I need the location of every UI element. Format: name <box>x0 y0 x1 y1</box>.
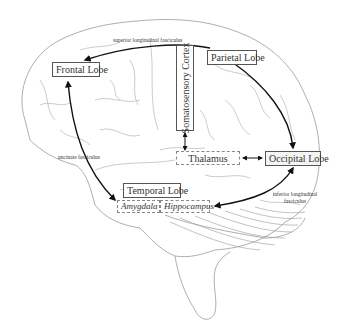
cerebellum-folia <box>170 207 305 250</box>
somatosensory-cortex-label: Somatosensory Cortex <box>180 43 191 134</box>
box-thalamus: Thalamus <box>176 151 240 165</box>
box-occipital-lobe: Occipital Lobe <box>265 151 321 166</box>
arrow-parietal-occipital <box>232 62 293 148</box>
arrow-uncinate <box>68 82 115 200</box>
box-temporal-lobe: Temporal Lobe <box>123 183 181 198</box>
label-uncinate-fasciculus: uncinate fasciculus <box>58 154 100 161</box>
brain-outline-diagram <box>0 0 337 333</box>
box-somatosensory-cortex: Somatosensory Cortex <box>176 45 194 131</box>
box-frontal-lobe: Frontal Lobe <box>52 62 100 77</box>
cerebrum-outline <box>22 20 320 257</box>
inferior-longitudinal-line2: fasciculus <box>265 198 325 205</box>
label-inferior-longitudinal-fasciculus: inferior longitudinal fasciculus <box>265 191 325 205</box>
brainstem-outline <box>175 252 230 319</box>
box-parietal-lobe: Parietal Lobe <box>207 50 257 65</box>
label-superior-longitudinal-fasciculus: superior longitudinal fasciculus <box>113 37 182 44</box>
box-hippocampus: Hippocampus <box>160 200 210 213</box>
inferior-longitudinal-line1: inferior longitudinal <box>265 191 325 198</box>
box-amygdala: Amygdala <box>117 200 160 213</box>
